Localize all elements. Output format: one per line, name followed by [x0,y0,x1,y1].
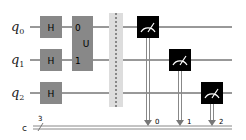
label-q0: q0 [11,19,24,36]
label-c: c [22,123,27,133]
h-gate-q1[interactable]: H [40,49,62,71]
measure-q1[interactable]: 1 [169,49,191,126]
label-q2: q2 [11,85,24,102]
u-gate-q0-q1[interactable]: 0 1 U [72,16,93,71]
svg-text:q1: q1 [11,52,24,69]
svg-text:H: H [48,23,55,33]
h-gate-q2[interactable]: H [40,82,62,104]
svg-text:q2: q2 [11,85,24,102]
label-c-size: 3 [38,115,42,123]
svg-text:1: 1 [187,118,191,126]
barrier [109,13,123,107]
h-gate-q0[interactable]: H [40,16,62,38]
svg-text:q0: q0 [11,19,24,36]
measure-q0[interactable]: 0 [137,16,159,126]
svg-text:1: 1 [75,56,81,66]
svg-text:0: 0 [155,118,159,126]
quantum-circuit-diagram: q0 q1 q2 c 3 H H H 0 1 U 0 [0,0,246,140]
svg-text:0: 0 [75,23,81,33]
svg-text:H: H [48,89,55,99]
svg-text:2: 2 [219,118,223,126]
svg-text:H: H [48,56,55,66]
label-q1: q1 [11,52,24,69]
measure-q2[interactable]: 2 [201,82,223,126]
svg-text:U: U [83,39,90,49]
classical-bus-slash [38,123,43,131]
